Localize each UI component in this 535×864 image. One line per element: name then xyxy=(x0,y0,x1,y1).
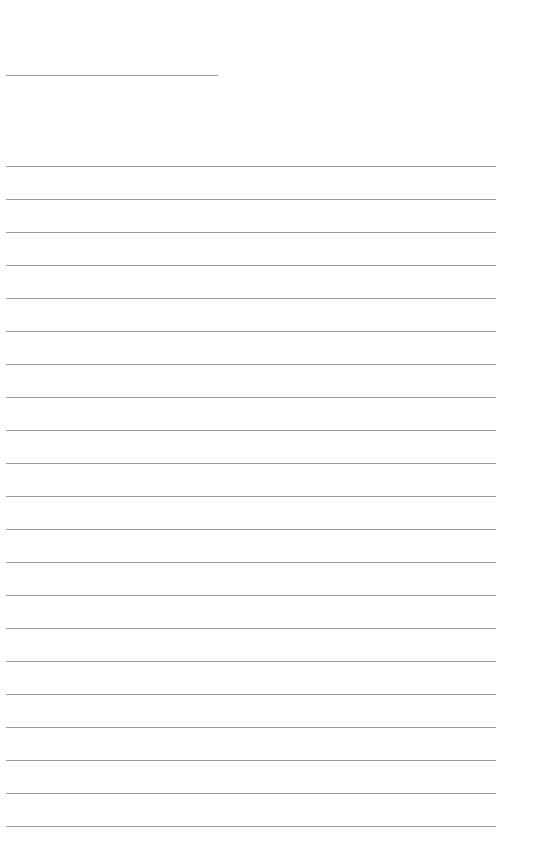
ruled-line xyxy=(6,562,496,563)
ruled-line xyxy=(6,661,496,662)
ruled-line xyxy=(6,166,496,167)
ruled-line xyxy=(6,364,496,365)
ruled-line xyxy=(6,463,496,464)
ruled-line xyxy=(6,595,496,596)
ruled-line xyxy=(6,298,496,299)
ruled-line xyxy=(6,727,496,728)
ruled-line xyxy=(6,628,496,629)
ruled-line xyxy=(6,430,496,431)
ruled-line xyxy=(6,694,496,695)
ruled-line xyxy=(6,826,496,827)
ruled-line xyxy=(6,331,496,332)
ruled-line xyxy=(6,760,496,761)
ruled-line xyxy=(6,793,496,794)
ruled-line xyxy=(6,265,496,266)
ruled-line xyxy=(6,397,496,398)
ruled-line xyxy=(6,232,496,233)
ruled-line xyxy=(6,496,496,497)
ruled-line xyxy=(6,529,496,530)
ruled-line xyxy=(6,199,496,200)
title-line xyxy=(6,75,218,76)
